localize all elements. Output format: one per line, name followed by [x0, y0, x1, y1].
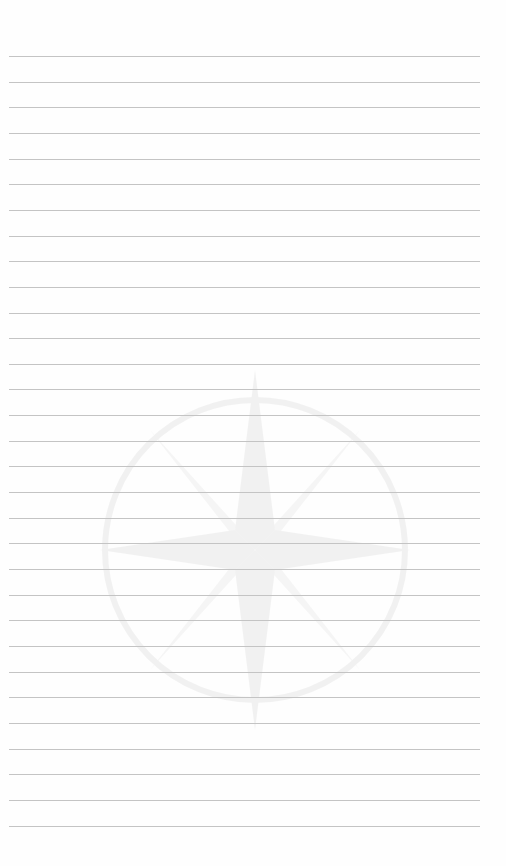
ruled-line — [9, 441, 480, 442]
ruled-line — [9, 261, 480, 262]
ruled-line — [9, 595, 480, 596]
ruled-line — [9, 210, 480, 211]
ruled-line — [9, 415, 480, 416]
ruled-line — [9, 518, 480, 519]
ruled-line — [9, 107, 480, 108]
ruled-line — [9, 672, 480, 673]
ruled-line — [9, 133, 480, 134]
ruled-line — [9, 159, 480, 160]
ruled-line — [9, 800, 480, 801]
ruled-line — [9, 749, 480, 750]
notebook-page — [0, 0, 506, 866]
ruled-line — [9, 364, 480, 365]
ruled-line — [9, 774, 480, 775]
ruled-line — [9, 697, 480, 698]
ruled-line — [9, 56, 480, 57]
ruled-line — [9, 389, 480, 390]
ruled-line — [9, 543, 480, 544]
ruled-line — [9, 466, 480, 467]
ruled-line — [9, 826, 480, 827]
ruled-line — [9, 492, 480, 493]
ruled-line — [9, 313, 480, 314]
ruled-line — [9, 82, 480, 83]
ruled-line — [9, 338, 480, 339]
ruled-line — [9, 620, 480, 621]
ruled-line — [9, 287, 480, 288]
ruled-line — [9, 236, 480, 237]
ruled-line — [9, 646, 480, 647]
ruled-line — [9, 569, 480, 570]
ruled-line — [9, 723, 480, 724]
ruled-line — [9, 184, 480, 185]
